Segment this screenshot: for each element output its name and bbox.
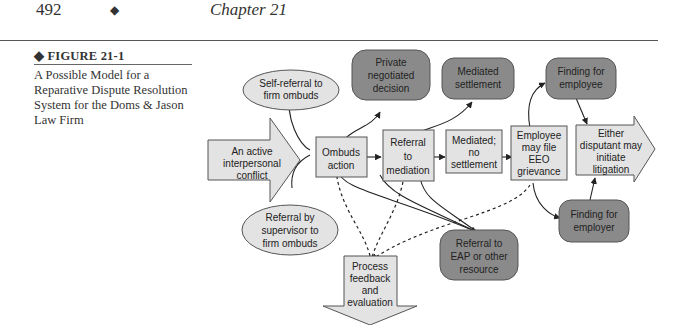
- svg-text:initiate: initiate: [597, 152, 626, 163]
- finding-employer-node: Finding for employer: [559, 200, 629, 242]
- supervisor-referral-node: Referral by supervisor to firm ombuds: [242, 205, 338, 255]
- svg-text:EEO: EEO: [528, 154, 549, 165]
- svg-text:no: no: [468, 147, 480, 158]
- svg-text:to: to: [404, 151, 413, 162]
- referral-mediation-node: Referral to mediation: [383, 130, 434, 181]
- svg-text:settlement: settlement: [455, 79, 501, 90]
- svg-text:Referral by: Referral by: [266, 212, 315, 223]
- private-decision-node: Private negotiated decision: [352, 50, 430, 100]
- svg-text:Employee: Employee: [517, 130, 562, 141]
- mediated-no-settlement-node: Mediated; no settlement: [446, 130, 502, 173]
- svg-text:resource: resource: [460, 264, 499, 275]
- svg-text:Ombuds: Ombuds: [322, 147, 360, 158]
- svg-text:supervisor to: supervisor to: [261, 225, 319, 236]
- svg-text:decision: decision: [373, 83, 410, 94]
- referral-eap-node: Referral to EAP or other resource: [440, 230, 518, 280]
- svg-text:feedback: feedback: [350, 273, 392, 284]
- process-feedback-arrow: Process feedback and evaluation: [323, 256, 417, 325]
- svg-text:action: action: [328, 160, 355, 171]
- start-conflict-arrow: An active interpersonal conflict: [208, 118, 300, 202]
- svg-text:Referral to: Referral to: [456, 238, 503, 249]
- finding-employee-node: Finding for employee: [546, 58, 616, 99]
- flow-diagram: An active interpersonal conflict Self-re…: [0, 0, 693, 325]
- svg-text:mediation: mediation: [386, 165, 429, 176]
- svg-text:settlement: settlement: [451, 159, 497, 170]
- svg-text:Referral: Referral: [390, 137, 426, 148]
- svg-text:Self-referral to: Self-referral to: [259, 78, 323, 89]
- svg-text:Mediated;: Mediated;: [452, 135, 496, 146]
- svg-text:employee: employee: [559, 79, 603, 90]
- svg-text:Finding for: Finding for: [570, 209, 618, 220]
- svg-text:An active: An active: [231, 146, 273, 157]
- svg-text:Private: Private: [375, 57, 407, 68]
- mediated-settlement-node: Mediated settlement: [442, 58, 514, 99]
- svg-text:firm ombuds: firm ombuds: [262, 238, 317, 249]
- svg-text:EAP or other: EAP or other: [450, 251, 508, 262]
- svg-text:and: and: [362, 285, 379, 296]
- svg-text:negotiated: negotiated: [368, 70, 415, 81]
- litigation-arrow: Either disputant may initiate litigation: [576, 116, 655, 182]
- svg-text:firm ombuds: firm ombuds: [263, 90, 318, 101]
- svg-text:employer: employer: [573, 222, 615, 233]
- svg-text:Either: Either: [598, 128, 625, 139]
- svg-text:disputant may: disputant may: [580, 140, 642, 151]
- svg-text:litigation: litigation: [593, 164, 630, 175]
- svg-text:evaluation: evaluation: [347, 297, 393, 308]
- svg-text:Finding for: Finding for: [557, 66, 605, 77]
- employee-eeo-node: Employee may file EEO grievance: [511, 126, 567, 180]
- self-referral-node: Self-referral to firm ombuds: [243, 70, 339, 110]
- svg-text:grievance: grievance: [517, 166, 561, 177]
- ombuds-action-node: Ombuds action: [316, 137, 367, 177]
- svg-text:Mediated: Mediated: [457, 66, 498, 77]
- svg-text:interpersonal: interpersonal: [223, 158, 281, 169]
- svg-text:may file: may file: [522, 142, 557, 153]
- svg-text:conflict: conflict: [236, 170, 267, 181]
- svg-text:Process: Process: [352, 261, 388, 272]
